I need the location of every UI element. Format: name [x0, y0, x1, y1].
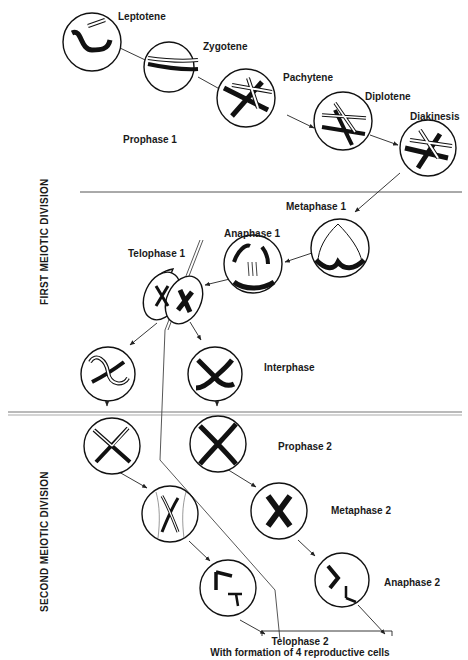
label-anaphase-1: Anaphase 1	[224, 228, 280, 239]
cell-interphase-right	[188, 347, 242, 401]
cell-anaphase-2-left	[200, 560, 256, 616]
cell-prophase-2-left	[84, 418, 140, 474]
section-label-second-division: SECOND MEIOTIC DIVISION	[39, 471, 50, 612]
label-anaphase-2: Anaphase 2	[384, 577, 440, 588]
label-metaphase-2: Metaphase 2	[331, 505, 391, 516]
label-interphase: Interphase	[264, 362, 315, 373]
cell-diakinesis	[400, 120, 456, 176]
label-metaphase-1: Metaphase 1	[286, 201, 346, 212]
label-telophase-1: Telophase 1	[128, 248, 185, 259]
cell-prophase-2-right	[190, 416, 246, 472]
cell-pachytene	[217, 69, 275, 127]
label-telophase-2-note: With formation of 4 reproductive cells	[170, 647, 430, 658]
label-pachytene: Pachytene	[283, 72, 333, 83]
label-leptotene: Leptotene	[118, 11, 166, 22]
label-prophase-2: Prophase 2	[278, 441, 332, 452]
cell-leptotene	[63, 13, 121, 71]
cell-telophase-1	[136, 266, 210, 330]
label-diplotene: Diplotene	[365, 91, 411, 102]
cell-metaphase-2-left	[142, 486, 198, 542]
cell-interphase-left	[81, 347, 135, 401]
label-diakinesis: Diakinesis	[410, 111, 459, 122]
label-prophase-1: Prophase 1	[123, 134, 177, 145]
cell-anaphase-2-right	[315, 553, 369, 607]
label-telophase-2: Telophase 2	[170, 636, 430, 647]
section-label-first-division: FIRST MEIOTIC DIVISION	[39, 178, 50, 305]
cell-diplotene	[314, 92, 372, 150]
cell-anaphase-1	[224, 235, 282, 293]
label-zygotene: Zygotene	[203, 41, 247, 52]
cell-metaphase-1	[311, 219, 369, 277]
cell-zygotene	[144, 42, 198, 92]
cell-metaphase-2-right	[251, 483, 307, 539]
